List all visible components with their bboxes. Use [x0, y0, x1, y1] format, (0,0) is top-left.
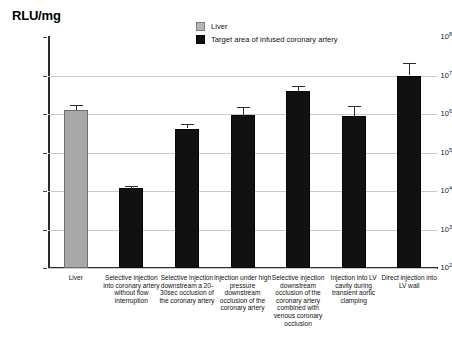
- x-axis-category-label: Liver: [46, 274, 106, 282]
- bar: [342, 116, 366, 268]
- rlu-per-mg-bar-chart: RLU/mg Liver Target area of infused coro…: [0, 0, 452, 358]
- y-axis-tick-mark: [43, 37, 47, 38]
- y-axis-tick-mark: [43, 153, 47, 154]
- y-axis-tick-label: 104: [415, 187, 452, 195]
- error-bar-cap: [70, 105, 83, 106]
- gridline: [48, 268, 437, 269]
- y-axis-tick-label: 106: [415, 110, 452, 118]
- bar: [286, 91, 310, 268]
- y-axis-tick-mark: [43, 230, 47, 231]
- error-bar-cap: [181, 124, 194, 125]
- y-axis-tick-label: 107: [415, 72, 452, 80]
- bar: [397, 76, 421, 269]
- x-axis-category-label: Injection into LV cavity during transien…: [324, 274, 384, 304]
- legend-swatch-liver-icon: [196, 22, 205, 31]
- error-bar-stem: [409, 63, 410, 75]
- y-axis-tick-mark: [43, 114, 47, 115]
- error-bar-cap: [125, 186, 138, 187]
- error-bar-cap: [237, 107, 250, 108]
- y-axis-tick-mark: [43, 268, 47, 269]
- error-bar-cap: [348, 106, 361, 107]
- y-axis-tick-mark: [43, 191, 47, 192]
- y-axis-title: RLU/mg: [12, 8, 61, 23]
- legend-label-liver: Liver: [211, 22, 227, 31]
- bar: [119, 188, 143, 268]
- x-axis-category-label: Injection under high pressure downstream…: [213, 274, 273, 312]
- bar: [175, 129, 199, 268]
- error-bar-cap: [403, 63, 416, 64]
- error-bar-stem: [354, 106, 355, 116]
- x-axis-category-label: Selective injection into coronary artery…: [102, 274, 162, 304]
- bar: [64, 110, 88, 268]
- x-axis-category-label: Selective injection downstream a 20-30se…: [157, 274, 217, 304]
- x-axis-category-label: Direct injection into LV wall: [379, 274, 439, 289]
- x-axis-category-label: Selective injection downstream occlusion…: [268, 274, 328, 327]
- y-axis-tick-label: 103: [415, 226, 452, 234]
- error-bar-cap: [292, 86, 305, 87]
- legend-item-liver: Liver: [196, 21, 338, 32]
- bar: [231, 115, 255, 268]
- gridline: [48, 76, 437, 77]
- y-axis-tick-mark: [43, 76, 47, 77]
- y-axis-tick-label: 102: [415, 264, 452, 272]
- plot-area: [48, 37, 437, 268]
- y-axis-tick-label: 105: [415, 149, 452, 157]
- y-axis-tick-label: 108: [415, 33, 452, 41]
- error-bar-stem: [243, 107, 244, 115]
